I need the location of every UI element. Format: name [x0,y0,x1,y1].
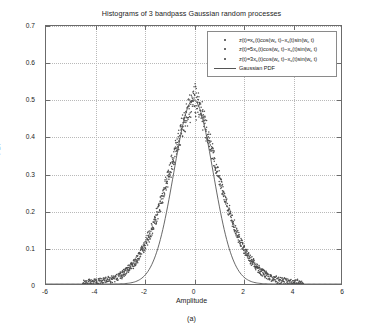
legend-item[interactable]: z(t)=3xc(t)cos(wc t)−xs(t)sin(wc t) [211,54,332,64]
scatter-point [279,280,280,281]
scatter-point [212,152,213,153]
scatter-point [224,193,225,194]
scatter-point [186,120,187,121]
scatter-point [182,135,183,136]
scatter-point [133,262,134,263]
scatter-point [165,189,166,190]
scatter-point [111,278,112,279]
scatter-point [239,241,240,242]
scatter-point [302,282,303,283]
scatter-point [274,276,275,277]
scatter-point [262,275,263,276]
scatter-point [85,280,86,281]
scatter-point [225,196,226,197]
scatter-point [121,278,122,279]
scatter-point [111,275,112,276]
scatter-point [109,277,110,278]
scatter-point [241,239,242,240]
scatter-point [136,255,137,256]
scatter-point [246,251,247,252]
scatter-point [96,280,97,281]
scatter-point [174,161,175,162]
scatter-point [189,122,190,123]
scatter-point [153,219,154,220]
scatter-point [250,257,251,258]
scatter-point [158,204,159,205]
scatter-point [167,171,168,172]
scatter-point [103,277,104,278]
scatter-point [164,194,165,195]
scatter-point [245,249,246,250]
scatter-point [222,186,223,187]
scatter-point [151,234,152,235]
xtick-label: -6 [25,288,65,295]
scatter-point [266,278,267,279]
scatter-point [162,201,163,202]
ytick-label: 0.6 [0,59,35,66]
scatter-point [234,229,235,230]
scatter-point [201,101,202,102]
scatter-point [142,250,143,251]
legend-item[interactable]: z(t)=xc(t)cos(wc t)−xs(t)sin(wc t) [211,35,332,45]
scatter-point [162,193,163,194]
scatter-point [140,256,141,257]
scatter-point [204,122,205,123]
xtick-label: -2 [124,288,164,295]
scatter-point [124,270,125,271]
scatter-point [253,258,254,259]
scatter-point [156,223,157,224]
scatter-point [293,280,294,281]
scatter-point [147,244,148,245]
legend-item[interactable]: Gaussian PDF [211,64,332,74]
scatter-point [105,277,106,278]
legend-marker-dot-icon [211,48,239,50]
scatter-point [256,266,257,267]
scatter-point [127,267,128,268]
scatter-point [165,188,166,189]
scatter-point [175,151,176,152]
legend-item[interactable]: z(t)=5xc(t)cos(wc t)−xs(t)sin(wc t) [211,45,332,55]
scatter-point [232,223,233,224]
scatter-point [209,137,210,138]
scatter-point [238,234,239,235]
scatter-point [168,178,169,179]
xtick-label: -4 [75,288,115,295]
scatter-point [272,278,273,279]
scatter-point [106,279,107,280]
scatter-point [290,282,291,283]
scatter-point [188,98,189,99]
scatter-point [232,214,233,215]
scatter-point [190,104,191,105]
xtick-label: 2 [223,288,263,295]
scatter-point [238,232,239,233]
scatter-point [192,97,193,98]
scatter-point [127,269,128,270]
scatter-point [189,94,190,95]
scatter-point [215,169,216,170]
scatter-point [214,161,215,162]
scatter-point [258,265,259,266]
scatter-point [230,211,231,212]
scatter-point [159,201,160,202]
scatter-point [95,278,96,279]
scatter-point [153,228,154,229]
scatter-point [118,276,119,277]
scatter-point [173,151,174,152]
scatter-point [181,117,182,118]
scatter-point [168,169,169,170]
scatter-point [178,129,179,130]
scatter-point [108,279,109,280]
scatter-point [233,221,234,222]
scatter-point [220,183,221,184]
scatter-point [217,171,218,172]
scatter-point [251,256,252,257]
scatter-point [242,247,243,248]
scatter-point [216,164,217,165]
scatter-point [212,147,213,148]
scatter-point [279,279,280,280]
scatter-point [121,275,122,276]
scatter-point [240,238,241,239]
scatter-point [151,223,152,224]
scatter-point [129,267,130,268]
legend-line-icon [211,68,239,69]
